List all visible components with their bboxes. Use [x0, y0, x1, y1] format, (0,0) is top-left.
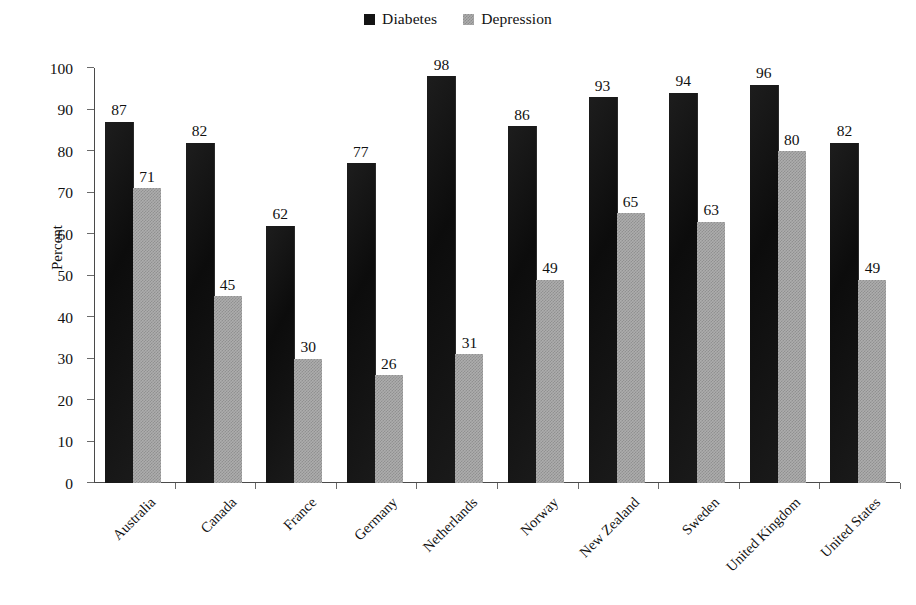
x-axis-tick [739, 483, 740, 489]
bar-depression-france: 30 [294, 359, 322, 484]
bar-depression-united-states: 49 [858, 280, 886, 483]
x-axis-tick [336, 483, 337, 489]
x-axis-category-label-norway: Norway [517, 494, 562, 539]
x-axis-tick [175, 483, 176, 489]
y-axis-tick [87, 441, 94, 442]
x-axis-tick [578, 483, 579, 489]
bar-value-label: 80 [784, 132, 800, 148]
bar-value-label: 82 [192, 123, 208, 139]
y-axis-tick-label: 90 [58, 102, 74, 118]
legend-entry-diabetes[interactable]: Diabetes [364, 10, 437, 28]
bar-depression-australia: 71 [133, 188, 161, 483]
bar-value-label: 77 [353, 144, 369, 160]
bar-value-label: 65 [623, 194, 639, 210]
bar-value-label: 63 [703, 202, 719, 218]
x-axis-category-label-united-kingdom: United Kingdom [723, 494, 804, 575]
bar-depression-netherlands: 31 [455, 354, 483, 483]
bar-value-label: 86 [514, 107, 530, 123]
bar-depression-sweden: 63 [697, 222, 725, 483]
bar-diabetes-united-states: 82 [830, 143, 859, 483]
bar-diabetes-new-zealand: 93 [589, 97, 618, 483]
chart-legend: DiabetesDepression [0, 10, 916, 28]
y-axis-tick [87, 358, 94, 359]
y-axis-line [94, 68, 95, 483]
bar-diabetes-canada: 82 [186, 143, 215, 483]
bar-depression-new-zealand: 65 [617, 213, 645, 483]
y-axis-tick-label: 10 [58, 434, 74, 450]
y-axis-tick-label: 60 [58, 226, 74, 242]
legend-entry-depression[interactable]: Depression [463, 10, 552, 28]
y-axis-tick-label: 70 [58, 185, 74, 201]
x-axis-tick [900, 483, 901, 489]
bar-value-label: 94 [675, 73, 691, 89]
plot-area: 0102030405060708090100 87718245623077269… [94, 68, 900, 483]
bar-value-label: 49 [865, 260, 881, 276]
y-axis-tick-label: 0 [65, 475, 73, 491]
bar-value-label: 93 [595, 78, 611, 94]
x-axis-category-label-netherlands: Netherlands [420, 494, 482, 556]
x-axis-category-label-new-zealand: New Zealand [576, 494, 643, 561]
bar-value-label: 71 [139, 169, 155, 185]
x-axis-tick [658, 483, 659, 489]
y-axis-tick [87, 399, 94, 400]
bar-value-label: 98 [434, 57, 450, 73]
bar-value-label: 49 [542, 260, 558, 276]
y-axis-tick-label: 30 [58, 351, 74, 367]
y-axis-tick [87, 109, 94, 110]
bar-value-label: 30 [300, 339, 316, 355]
bar-diabetes-norway: 86 [508, 126, 537, 483]
bar-depression-germany: 26 [375, 375, 403, 483]
bar-depression-united-kingdom: 80 [778, 151, 806, 483]
y-axis-tick [87, 316, 94, 317]
legend-label: Depression [481, 10, 552, 28]
chart-page: DiabetesDepression Percent 0102030405060… [0, 0, 916, 605]
x-axis-category-label-canada: Canada [197, 494, 240, 537]
x-axis-category-label-united-states: United States [817, 494, 884, 561]
bar-value-label: 26 [381, 356, 397, 372]
bar-value-label: 62 [272, 206, 288, 222]
x-axis-tick [416, 483, 417, 489]
y-axis-tick [87, 275, 94, 276]
bar-diabetes-germany: 77 [347, 163, 376, 483]
x-axis-category-label-france: France [280, 494, 320, 534]
y-axis-tick-label: 20 [58, 392, 74, 408]
y-axis-tick [87, 192, 94, 193]
x-axis-category-label-sweden: Sweden [679, 494, 723, 538]
bar-depression-norway: 49 [536, 280, 564, 483]
x-axis-tick [497, 483, 498, 489]
bar-diabetes-australia: 87 [105, 122, 134, 483]
bar-diabetes-france: 62 [266, 226, 295, 483]
legend-swatch-icon [364, 14, 375, 25]
bar-value-label: 87 [111, 102, 127, 118]
y-axis-tick [87, 67, 94, 68]
bar-value-label: 45 [220, 277, 236, 293]
bar-value-label: 96 [756, 65, 772, 81]
y-axis-tick [87, 233, 94, 234]
bar-diabetes-sweden: 94 [669, 93, 698, 483]
y-axis-tick-label: 40 [58, 309, 74, 325]
legend-label: Diabetes [382, 10, 437, 28]
y-axis-tick [87, 150, 94, 151]
bar-depression-canada: 45 [214, 296, 242, 483]
y-axis-tick-label: 80 [58, 143, 74, 159]
x-axis-category-label-germany: Germany [351, 494, 401, 544]
legend-swatch-icon [463, 14, 474, 25]
bar-value-label: 82 [837, 123, 853, 139]
x-axis-tick [819, 483, 820, 489]
x-axis-tick [255, 483, 256, 489]
y-axis-tick-label: 100 [50, 60, 73, 76]
y-axis-tick-label: 50 [58, 268, 74, 284]
bar-diabetes-united-kingdom: 96 [750, 85, 779, 483]
y-axis-tick [87, 482, 94, 483]
bar-diabetes-netherlands: 98 [427, 76, 456, 483]
bar-value-label: 31 [462, 335, 478, 351]
x-axis-category-label-australia: Australia [109, 494, 159, 544]
